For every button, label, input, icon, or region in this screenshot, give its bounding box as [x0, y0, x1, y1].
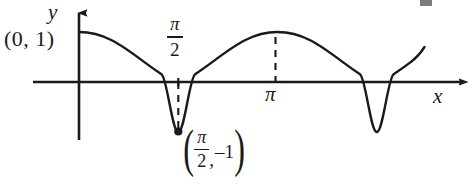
fraction-bar: [167, 36, 183, 38]
x-tick-label-pi-over-two: π 2: [167, 14, 183, 59]
minimum-point-coordinate-label: ( π 2 , –1 ): [180, 128, 248, 171]
coord-fraction-bar: [194, 149, 209, 151]
fraction-numerator: π: [167, 14, 183, 35]
x-axis-label: x: [433, 86, 442, 107]
y-intercept-label: (0, 1): [4, 28, 55, 50]
y-axis-label: y: [48, 2, 57, 23]
paren-left: (: [183, 128, 194, 171]
x-tick-label-pi: π: [265, 84, 276, 105]
coord-y-value: –1: [214, 139, 234, 161]
fraction-denominator: 2: [167, 39, 183, 60]
coord-fraction-denominator: 2: [194, 151, 209, 171]
cosine-graph-figure: y x (0, 1) π 2 π ( π 2 , –1 ): [0, 0, 473, 190]
coord-fraction-numerator: π: [194, 128, 209, 148]
fraction-pi-over-two-coord: π 2: [194, 128, 209, 171]
scan-artifact: [420, 0, 432, 6]
paren-right: ): [234, 128, 245, 171]
fraction-pi-over-two: π 2: [167, 14, 183, 59]
